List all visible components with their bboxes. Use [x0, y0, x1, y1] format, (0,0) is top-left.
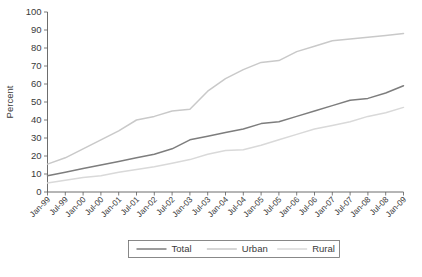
x-tick-label: Jan-05 — [242, 195, 266, 219]
x-tick-label: Jan-06 — [277, 195, 301, 219]
x-tick-label: Jan-08 — [348, 195, 372, 219]
y-tick-label: 10 — [31, 168, 42, 179]
y-tick-label: 50 — [31, 96, 42, 107]
series-line-rural — [48, 107, 404, 183]
x-axis: Jan-99Jul-99Jan-00Jul-00Jan-01Jul-01Jan-… — [28, 192, 408, 219]
y-tick-label: 90 — [31, 24, 42, 35]
y-axis-title-text: Percent — [4, 85, 15, 118]
x-tick-label: Jan-04 — [206, 195, 230, 219]
y-tick-label: 70 — [31, 60, 42, 71]
legend-label-total: Total — [172, 243, 192, 254]
x-tick-label: Jan-01 — [99, 195, 123, 219]
line-chart: 0102030405060708090100 Jan-99Jul-99Jan-0… — [0, 0, 422, 277]
data-series-group — [48, 34, 404, 183]
y-tick-label: 100 — [26, 6, 42, 17]
x-tick-label: Jan-09 — [384, 195, 408, 219]
y-tick-label: 80 — [31, 42, 42, 53]
legend-label-rural: Rural — [312, 243, 335, 254]
x-tick-label: Jan-03 — [170, 195, 194, 219]
chart-legend: TotalUrbanRural — [129, 241, 340, 258]
y-tick-label: 30 — [31, 132, 42, 143]
x-tick-label: Jan-02 — [135, 195, 159, 219]
y-tick-label: 0 — [36, 186, 41, 197]
legend-label-urban: Urban — [242, 243, 268, 254]
y-tick-label: 40 — [31, 114, 42, 125]
y-axis: 0102030405060708090100 — [26, 6, 48, 197]
x-tick-label: Jan-99 — [28, 195, 52, 219]
x-tick-label: Jan-00 — [64, 195, 88, 219]
series-line-urban — [48, 34, 404, 165]
series-line-total — [48, 86, 404, 176]
chart-canvas: 0102030405060708090100 Jan-99Jul-99Jan-0… — [0, 0, 422, 277]
y-tick-label: 60 — [31, 78, 42, 89]
y-axis-title: Percent — [4, 85, 15, 118]
y-tick-label: 20 — [31, 150, 42, 161]
x-tick-label: Jan-07 — [313, 195, 337, 219]
